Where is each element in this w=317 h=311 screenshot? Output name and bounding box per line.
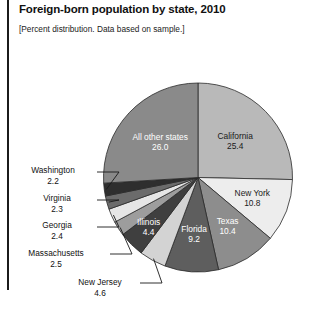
pie-label-virginia: Virginia 2.3 [18,193,96,214]
pie-label-newjersey: New Jersey 4.6 [62,277,138,298]
pie-label-washington-value: 2.2 [10,176,96,187]
pie-label-newyork-value: 10.8 [244,198,261,208]
pie-label-florida-name: Florida [181,224,207,234]
pie-label-washington-name: Washington [31,165,75,175]
pie-label-washington: Washington 2.2 [10,165,96,186]
pie-label-massachusetts-value: 2.5 [4,259,108,270]
pie-label-california-name: California [218,131,254,141]
pie-label-florida-value: 9.2 [188,234,200,244]
pie-label-california-value: 25.4 [227,141,244,151]
pie-label-georgia-name: Georgia [42,220,72,230]
pie-label-virginia-value: 2.3 [18,204,96,215]
chart-page: Foreign-born population by state, 2010 [… [0,0,317,311]
pie-label-massachusetts-name: Massachusetts [28,248,83,258]
pie-label-texas-value: 10.4 [219,226,236,236]
pie-label-newyork-name: New York [235,188,271,198]
pie-label-allother-name: All other states [132,132,187,142]
pie-label-texas-name: Texas [217,216,239,226]
pie-label-georgia-value: 2.4 [18,231,96,242]
pie-label-massachusetts: Massachusetts 2.5 [4,248,108,269]
pie-label-newjersey-value: 4.6 [62,288,138,299]
pie-label-newjersey-name: New Jersey [78,277,121,287]
pie-label-georgia: Georgia 2.4 [18,220,96,241]
pie-label-virginia-name: Virginia [43,193,71,203]
pie-label-illinois-name: Illinois [137,217,160,227]
pie-label-illinois-value: 4.4 [143,227,155,237]
pie-label-allother-value: 26.0 [152,142,169,152]
